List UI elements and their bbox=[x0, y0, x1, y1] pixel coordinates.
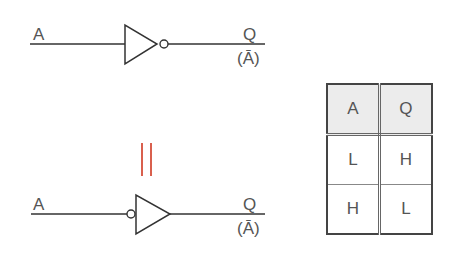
cell: L bbox=[327, 135, 379, 185]
header-a: A bbox=[327, 84, 379, 135]
top-input-label: A bbox=[33, 26, 44, 43]
truth-table: A Q L H H L bbox=[326, 83, 433, 235]
top-output-expr: (Ā) bbox=[237, 50, 260, 67]
top-output-label: Q bbox=[243, 26, 256, 43]
cell: H bbox=[379, 135, 432, 185]
cell: H bbox=[327, 185, 379, 235]
header-q: Q bbox=[379, 84, 432, 135]
truth-table-header: A Q bbox=[327, 84, 432, 135]
table-row: H L bbox=[327, 185, 432, 235]
bottom-not-gate bbox=[31, 195, 265, 234]
table-row: L H bbox=[327, 135, 432, 185]
cell: L bbox=[379, 185, 432, 235]
bottom-output-expr: (Ā) bbox=[237, 220, 260, 237]
equivalence-icon bbox=[142, 143, 151, 176]
top-not-gate bbox=[30, 25, 265, 64]
bottom-input-label: A bbox=[33, 196, 44, 213]
bottom-output-label: Q bbox=[243, 196, 256, 213]
